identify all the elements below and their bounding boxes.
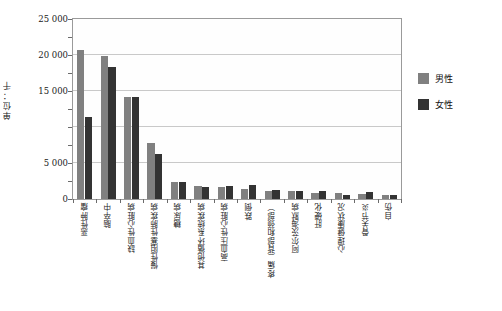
y-tick-label: 25 000 [24,14,68,24]
x-tick-label: 自伤 [385,203,393,220]
bar-group [260,19,283,199]
bar-group [237,19,260,199]
x-tick-mark [401,199,402,203]
legend-swatch-female [418,99,429,110]
chart-container: 单位：千 25 00020 00015 0005 0000 恶性肿瘤脑卒中缺血性… [0,0,502,311]
x-tick-label: 骨关节炎 [362,203,370,236]
bar-group [190,19,213,199]
bar-male[interactable] [335,193,342,199]
bar-female[interactable] [366,192,373,199]
legend-item-male[interactable]: 男性 [418,72,453,85]
bar-group [354,19,377,199]
bar-male[interactable] [382,195,389,199]
bar-male[interactable] [241,189,248,199]
bar-male[interactable] [194,186,201,199]
bar-female[interactable] [85,117,92,199]
x-tick-label: 阿尔茨海默病 [292,203,300,253]
legend: 男性 女性 [418,72,453,124]
bar-group [307,19,330,199]
bar-female[interactable] [132,97,139,199]
bar-group [167,19,190,199]
bar-group [143,19,166,199]
x-tick-label: 恶性肿瘤 [81,203,89,236]
legend-swatch-male [418,73,429,84]
bar-female[interactable] [108,67,115,199]
y-tick-label: 20 000 [24,50,68,60]
x-tick-label: 脑卒中 [104,203,112,228]
x-tick-label: 缺血性心脏病 [128,203,136,253]
bar-female[interactable] [296,191,303,199]
bar-group [120,19,143,199]
bar-female[interactable] [319,191,326,199]
bars-layer [73,19,401,199]
bar-group [378,19,401,199]
bar-female[interactable] [390,195,397,199]
bar-male[interactable] [358,194,365,199]
bar-male[interactable] [288,191,295,199]
x-tick-label: 肝硬化 [315,203,323,228]
bar-female[interactable] [155,154,162,199]
bar-female[interactable] [343,195,350,199]
legend-label-male: 男性 [435,72,453,85]
x-tick-label: 疼痛（背部和颈部） [268,203,276,278]
bar-female[interactable] [249,185,256,199]
x-axis-tick-labels: 恶性肿瘤脑卒中缺血性心脏病慢性阻塞性肺疾病糖尿病其他循环系统疾病高血压性心脏病跌… [73,203,401,308]
bar-male[interactable] [101,56,108,199]
bar-male[interactable] [171,182,178,199]
x-tick-label: 高血压性心脏病 [221,203,229,261]
bar-male[interactable] [147,143,154,199]
y-tick-label: 0 [24,194,68,204]
legend-label-female: 女性 [435,98,453,111]
bar-male[interactable] [265,191,272,199]
x-tick-label: 糖尿病 [174,203,182,228]
bar-male[interactable] [218,187,225,199]
bar-group [331,19,354,199]
y-tick-label: 15 000 [24,86,68,96]
x-tick-label: 其他循环系统疾病 [198,203,206,269]
bar-male[interactable] [77,50,84,199]
bar-male[interactable] [311,193,318,199]
bar-group [284,19,307,199]
bar-male[interactable] [124,97,131,199]
x-tick-label: 跌倒 [245,203,253,220]
bar-group [96,19,119,199]
y-tick-label: 5 000 [24,158,68,168]
bar-female[interactable] [272,190,279,199]
x-tick-label: 慢性阻塞性肺疾病 [151,203,159,269]
bar-female[interactable] [179,182,186,199]
bar-female[interactable] [202,187,209,199]
bar-group [214,19,237,199]
x-tick-label: 心理健康状况 [338,203,346,253]
y-axis-tick-labels: 25 00020 00015 0005 0000 [18,18,68,200]
bar-group [73,19,96,199]
y-axis-title: 单位：千 [2,80,18,120]
legend-item-female[interactable]: 女性 [418,98,453,111]
bar-female[interactable] [226,186,233,199]
